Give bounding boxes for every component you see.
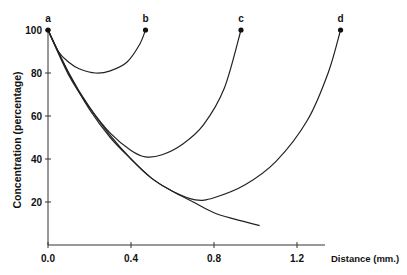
- axes: 204060801000.00.40.81.2: [25, 25, 325, 265]
- y-tick-label: 40: [31, 154, 43, 165]
- endpoint-label-c: c: [238, 13, 244, 24]
- curve-a-decay-: [48, 30, 260, 226]
- x-tick-label: 1.2: [290, 253, 304, 264]
- endpoint-label-a: a: [45, 13, 51, 24]
- curve-a-c: [48, 30, 241, 157]
- endpoint-marker-a: [45, 27, 50, 32]
- x-tick-label: 0.8: [207, 253, 221, 264]
- y-tick-label: 20: [31, 197, 43, 208]
- y-tick-label: 100: [25, 25, 42, 36]
- endpoint-label-b: b: [142, 13, 148, 24]
- y-axis-label: Concentration (percentage): [11, 71, 23, 208]
- concentration-distance-chart: 204060801000.00.40.81.2 abcd Concentrati…: [0, 0, 407, 275]
- endpoint-marker-b: [143, 27, 148, 32]
- x-tick-label: 0.0: [41, 253, 55, 264]
- endpoint-markers: abcd: [45, 13, 343, 33]
- endpoint-label-d: d: [338, 13, 344, 24]
- x-axis-label: Distance (mm.): [331, 253, 399, 264]
- curves: [48, 30, 341, 226]
- curve-a-d: [48, 30, 341, 200]
- endpoint-marker-d: [338, 27, 343, 32]
- endpoint-marker-c: [238, 27, 243, 32]
- y-tick-label: 80: [31, 68, 43, 79]
- x-tick-label: 0.4: [124, 253, 138, 264]
- curve-a-b: [48, 30, 146, 73]
- y-tick-label: 60: [31, 111, 43, 122]
